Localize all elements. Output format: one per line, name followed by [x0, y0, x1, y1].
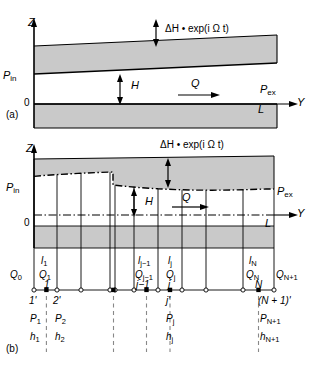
panel-b-upper-solid: [34, 156, 274, 190]
boundary-node: [272, 288, 276, 292]
symbol-base: P: [30, 313, 37, 324]
panel-a-flow-label: Q: [191, 78, 200, 89]
element-length-label-j: lj: [168, 256, 172, 268]
panel-a-z-axis-label: Z: [28, 17, 35, 28]
panel-b-exit-pressure-label: Pex: [277, 186, 293, 199]
symbol-base: P: [260, 313, 267, 324]
node-pressure-2: P2: [55, 314, 66, 326]
symbol-subscript: N+1: [267, 317, 281, 326]
node-prime-2: 2': [53, 296, 60, 306]
panel-a-tag: (a): [6, 110, 18, 120]
panel-b-inlet-pressure-label: Pin: [6, 182, 20, 195]
element-number-jm1: j−1: [136, 280, 150, 290]
element-number-j: j: [168, 280, 170, 290]
symbol-subscript: 2: [61, 335, 65, 344]
node-gap-j: hj: [166, 332, 173, 344]
panel-a-origin-label: 0: [24, 98, 30, 108]
flow-label-0: Q0: [10, 270, 22, 282]
symbol-subscript: j: [174, 273, 176, 282]
panel-b: [31, 144, 298, 352]
symbol-subscript: 1: [37, 317, 41, 326]
panel-a-y-axis-label: Y: [297, 97, 304, 108]
p-subscript: ex: [267, 88, 275, 97]
panel-a-exit-pressure-label: Pex: [260, 84, 276, 97]
element-length-label-jm1: lj−1: [138, 256, 150, 268]
panel-a-gap-label: H: [131, 80, 139, 91]
panel-b-oscillation-label: ΔH • exp(i Ω t): [160, 140, 224, 150]
panel-b-flow-arrowhead: [200, 204, 209, 210]
symbol-base: P: [166, 313, 173, 324]
panel-b-origin-label: 0: [24, 218, 30, 228]
boundary-node: [55, 288, 59, 292]
node-prime-1: 1': [29, 296, 36, 306]
node-prime-Np1: (N + 1)': [258, 296, 291, 306]
symbol-subscript: N: [251, 259, 256, 268]
node-gap-2: h2: [55, 332, 65, 344]
symbol-subscript: j: [173, 317, 175, 326]
node-pressure-j: Pj: [166, 314, 174, 326]
panel-b-center-droplines: [46, 296, 258, 352]
p-subscript: ex: [284, 190, 292, 199]
panel-b-z-axis-label: Z: [26, 143, 33, 154]
element-number-1: 1: [44, 280, 50, 290]
element-number-N: N: [255, 280, 262, 290]
node-gap-1: h1: [30, 332, 40, 344]
panel-a-oscillation-label: ΔH • exp(i Ω t): [165, 24, 229, 34]
p-subscript: in: [10, 74, 16, 83]
symbol-subscript: 0: [18, 273, 22, 282]
panel-b-lower-solid: [34, 226, 274, 248]
symbol-subscript: j: [170, 259, 172, 268]
element-length-label-N: lN: [249, 256, 257, 268]
flow-label-Np1: QN+1: [276, 270, 298, 282]
panel-b-length-label: L: [265, 218, 271, 229]
symbol-base: Q: [276, 269, 284, 280]
boundary-node: [156, 288, 160, 292]
symbol-subscript: 1: [36, 335, 40, 344]
panel-b-tag: (b): [6, 344, 18, 354]
boundary-node: [204, 288, 208, 292]
element-length-label-1: l1: [41, 256, 47, 268]
symbol-subscript: N+1: [266, 335, 280, 344]
panel-a-length-label: L: [258, 104, 264, 115]
boundary-node: [32, 288, 36, 292]
panel-b-y-axis-label: Y: [297, 208, 304, 219]
panel-b-flow-label: Q: [182, 192, 191, 203]
symbol-subscript: j: [172, 335, 174, 344]
node-gap-Np1: hN+1: [260, 332, 280, 344]
symbol-subscript: j−1: [140, 259, 150, 268]
boundary-node: [180, 288, 184, 292]
boundary-node: [79, 288, 83, 292]
p-subscript: in: [13, 186, 19, 195]
symbol-subscript: 1: [43, 259, 47, 268]
panel-b-gap-label: H: [145, 196, 153, 207]
panel-a-lower-solid: [34, 104, 277, 128]
node-prime-j: j': [166, 296, 170, 306]
node-pressure-1: P1: [30, 314, 41, 326]
symbol-subscript: 2: [62, 317, 66, 326]
panel-a-gap-arrow-up: [117, 74, 123, 82]
node-pressure-Np1: PN+1: [260, 314, 281, 326]
center-node: [111, 288, 115, 292]
panel-a-osc-arrow-up: [153, 19, 159, 27]
symbol-subscript: N+1: [284, 273, 298, 282]
panel-a-inlet-pressure-label: Pin: [3, 70, 17, 83]
symbol-base: Q: [246, 269, 254, 280]
panel-a-flow-arrowhead: [211, 92, 220, 98]
symbol-base: Q: [10, 269, 18, 280]
symbol-base: P: [55, 313, 62, 324]
boundary-node: [241, 288, 245, 292]
